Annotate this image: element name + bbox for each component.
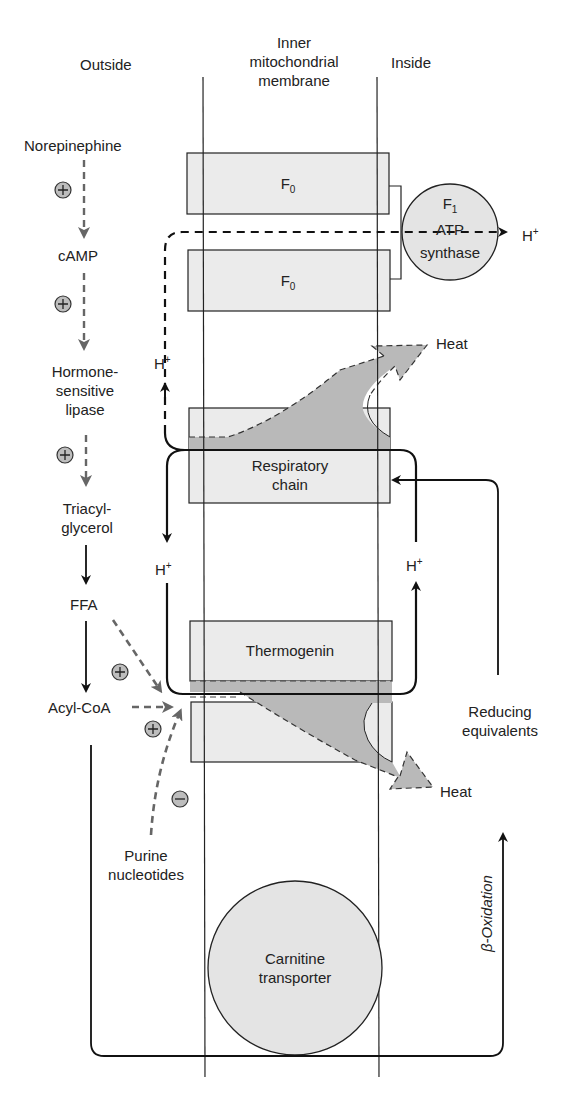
label-respiratory-chain: Respiratory chain	[240, 456, 340, 494]
minus-icon	[172, 791, 188, 807]
membrane-inner-line	[377, 77, 379, 1077]
label-f0-top: F0	[268, 174, 308, 199]
label-h-plus-left-upper: H+	[154, 350, 171, 373]
label-reducing-equivalents: Reducing equivalents	[450, 702, 550, 740]
label-beta-oxidation: β-Oxidation	[478, 864, 495, 964]
thermogenin-band	[190, 681, 392, 692]
header-membrane: Inner mitochondrial membrane	[214, 33, 374, 90]
label-purine-nucleotides: Purine nucleotides	[96, 846, 196, 884]
label-hormone-sensitive-lipase: Hormone- sensitive lipase	[40, 362, 130, 419]
header-outside: Outside	[80, 55, 132, 74]
membrane-outer-line	[203, 77, 205, 1077]
label-acyl-coa: Acyl-CoA	[48, 698, 111, 717]
plus-icon	[57, 447, 73, 463]
label-heat-lower: Heat	[440, 782, 472, 801]
plus-icon	[55, 296, 71, 312]
label-f1-atp-synthase: F1 ATP synthase	[410, 194, 490, 263]
label-f0-bottom: F0	[268, 271, 308, 296]
plus-icon	[55, 182, 71, 198]
reducing-equivalents-path	[394, 480, 498, 675]
label-camp: cAMP	[58, 246, 98, 265]
header-inside: Inside	[391, 53, 431, 72]
label-norepinephine: Norepinephine	[24, 136, 122, 155]
label-heat-upper: Heat	[436, 334, 468, 353]
label-thermogenin: Thermogenin	[240, 641, 340, 660]
plus-icon	[112, 664, 128, 680]
plus-icon	[145, 721, 161, 737]
label-h-plus-right: H+	[406, 552, 423, 575]
label-h-plus-left-lower: H+	[155, 556, 172, 579]
label-h-plus-atp: H+	[522, 222, 539, 245]
label-carnitine-transporter: Carnitine transporter	[240, 949, 350, 987]
label-triacylglycerol: Triacyl- glycerol	[45, 499, 129, 537]
label-ffa: FFA	[70, 595, 98, 614]
